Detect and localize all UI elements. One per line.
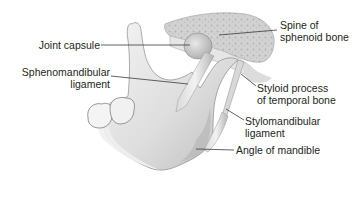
tmj-ligament-diagram: Joint capsule Sphenomandibular ligament …: [0, 0, 363, 197]
label-stylomandibular-ligament: Stylomandibular ligament: [245, 115, 320, 139]
label-spine-of-sphenoid: Spine of sphenoid bone: [280, 19, 349, 43]
leader-stylomandibular: [226, 109, 244, 120]
label-angle-of-mandible: Angle of mandible: [236, 144, 320, 156]
label-joint-capsule: Joint capsule: [20, 39, 100, 51]
label-sphenomandibular-ligament: Sphenomandibular ligament: [10, 66, 110, 90]
label-styloid-process: Styloid process of temporal bone: [257, 82, 336, 106]
